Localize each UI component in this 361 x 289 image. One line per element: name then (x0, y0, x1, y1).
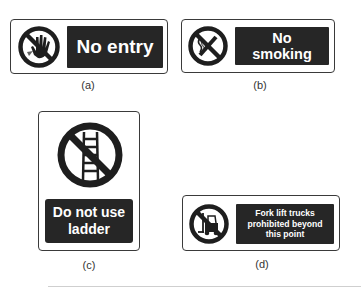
caption-a: (a) (73, 79, 103, 91)
no-entry-hand-icon (17, 25, 61, 69)
sign-text: No entry (76, 36, 153, 58)
sign-no-forklift: Fork lift trucks prohibited beyond this … (182, 195, 340, 251)
sign-text: Do not use ladder (53, 204, 125, 238)
sign-text: Fork lift trucks prohibited beyond this … (248, 208, 323, 240)
sign-no-smoking: No smoking (181, 19, 335, 73)
caption-c: (c) (74, 259, 104, 271)
no-smoking-icon (187, 25, 229, 67)
no-forklift-icon (188, 203, 230, 245)
sign-text: No smoking (252, 30, 312, 62)
sign-no-entry: No entry (10, 19, 168, 74)
divider (48, 286, 361, 287)
caption-d: (d) (247, 258, 277, 270)
no-ladder-icon (55, 120, 125, 190)
sign-panel: Do not use ladder (45, 199, 133, 243)
sign-panel: No entry (67, 26, 163, 68)
sign-panel: Fork lift trucks prohibited beyond this … (236, 204, 334, 244)
sign-panel: No smoking (235, 27, 329, 65)
caption-b: (b) (245, 79, 275, 91)
sign-do-not-use-ladder: Do not use ladder (38, 111, 140, 251)
